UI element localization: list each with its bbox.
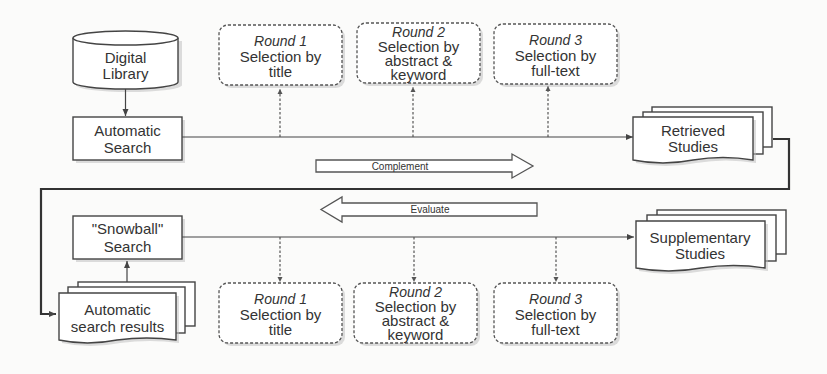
- automatic-search-label-1: Automatic: [94, 122, 161, 139]
- automatic-search-results-label-1: Automatic: [84, 301, 151, 318]
- complement-label: Complement: [372, 161, 429, 172]
- supplementary-studies-label-2: Studies: [675, 245, 725, 262]
- bottom-round-1-title: Round 1: [254, 291, 307, 307]
- bottom-round-2-line3: keyword: [388, 326, 444, 343]
- top-round-3-box: Round 3 Selection by full-text: [494, 24, 620, 87]
- top-round-1-box: Round 1 Selection by title: [219, 25, 345, 88]
- digital-library-label-1: Digital: [105, 49, 147, 66]
- evaluate-arrow: Evaluate: [321, 197, 537, 222]
- evaluate-label: Evaluate: [411, 204, 450, 215]
- top-round-2-line3: keyword: [391, 66, 447, 83]
- bottom-round-3-title: Round 3: [529, 291, 582, 307]
- supplementary-studies-node: Supplementary Studies: [636, 210, 786, 274]
- retrieved-studies-label-2: Studies: [668, 138, 718, 155]
- supplementary-studies-label-1: Supplementary: [650, 229, 751, 246]
- snowball-search-node: "Snowball" Search: [73, 216, 185, 262]
- bottom-round-3-box: Round 3 Selection by full-text: [494, 283, 620, 346]
- literature-search-process-diagram: Digital Library Automatic Search Round 1…: [0, 0, 827, 374]
- bottom-round-1-box: Round 1 Selection by title: [219, 283, 345, 346]
- bottom-round-3-line2: full-text: [531, 321, 580, 338]
- snowball-search-label-1: "Snowball": [92, 220, 164, 237]
- bottom-round-2-box: Round 2 Selection by abstract & keyword: [354, 283, 480, 346]
- bottom-round-1-line2: title: [269, 321, 292, 338]
- top-round-2-box: Round 2 Selection by abstract & keyword: [357, 23, 483, 86]
- retrieved-studies-node: Retrieved Studies: [633, 107, 772, 166]
- top-round-1-line2: title: [269, 63, 292, 80]
- database-icon: [73, 31, 178, 45]
- top-round-3-title: Round 3: [529, 32, 582, 48]
- digital-library-node: Digital Library: [73, 31, 182, 92]
- automatic-search-label-2: Search: [104, 139, 152, 156]
- complement-arrow: Complement: [316, 154, 533, 178]
- automatic-search-results-label-2: search results: [71, 318, 164, 335]
- top-round-3-line2: full-text: [531, 62, 580, 79]
- digital-library-label-2: Library: [103, 65, 149, 82]
- snowball-search-label-2: Search: [104, 238, 152, 255]
- automatic-search-node: Automatic Search: [73, 117, 185, 163]
- retrieved-studies-label-1: Retrieved: [661, 122, 725, 139]
- automatic-search-results-node: Automatic search results: [59, 282, 195, 346]
- top-round-1-title: Round 1: [254, 33, 307, 49]
